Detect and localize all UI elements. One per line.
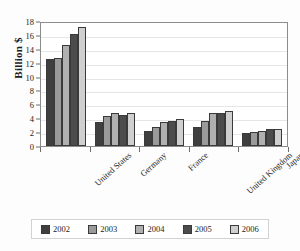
bar-group <box>242 23 282 146</box>
bar <box>152 127 160 146</box>
bar <box>193 127 201 146</box>
y-axis-tick-labels: 024681012141618 <box>0 22 40 147</box>
bar <box>176 119 184 146</box>
x-axis-category-label: Germany <box>139 150 169 179</box>
legend-swatch-icon <box>41 225 50 234</box>
bar-groups <box>41 23 287 146</box>
legend-item-label: 2005 <box>195 224 212 234</box>
bar-group <box>193 23 233 146</box>
bar <box>274 129 282 146</box>
legend-swatch-icon <box>135 225 144 234</box>
y-axis-tick-label: 0 <box>30 143 34 152</box>
bar <box>119 115 127 146</box>
y-axis-tick-label: 6 <box>30 101 34 110</box>
y-axis-tick-label: 14 <box>26 46 35 55</box>
bar <box>70 34 78 146</box>
bar <box>144 131 152 146</box>
bar-group <box>144 23 184 146</box>
legend-item-label: 2002 <box>53 224 70 234</box>
x-axis-category-label: France <box>186 150 210 173</box>
bar <box>209 113 217 146</box>
bar <box>46 59 54 146</box>
bar <box>111 113 119 146</box>
legend-item-label: 2006 <box>242 224 259 234</box>
bar <box>225 111 233 146</box>
legend-item[interactable]: 2003 <box>88 224 117 234</box>
legend-item[interactable]: 2004 <box>135 224 164 234</box>
x-axis-category-label: United Kingdom <box>244 150 293 196</box>
bar-group <box>46 23 86 146</box>
legend-item[interactable]: 2006 <box>230 224 259 234</box>
bar <box>62 45 70 146</box>
y-axis-tick-label: 12 <box>26 59 35 68</box>
y-axis-tick-label: 10 <box>26 73 35 82</box>
y-axis-tick-label: 16 <box>26 32 35 41</box>
bar <box>242 133 250 146</box>
bar <box>250 132 258 146</box>
legend-item-label: 2004 <box>147 224 164 234</box>
legend-swatch-icon <box>88 225 97 234</box>
bar <box>266 129 274 146</box>
bar <box>54 58 62 146</box>
bar <box>217 113 225 146</box>
legend-item[interactable]: 2002 <box>41 224 70 234</box>
plot-area <box>40 22 288 147</box>
bar <box>103 116 111 146</box>
bar <box>78 27 86 146</box>
legend-swatch-icon <box>230 225 239 234</box>
bar <box>168 121 176 146</box>
y-axis-tick-label: 18 <box>26 18 35 27</box>
bar-group <box>95 23 135 146</box>
bar <box>95 122 103 146</box>
y-axis-tick-label: 8 <box>30 87 34 96</box>
legend-item-label: 2003 <box>100 224 117 234</box>
y-axis-tick-label: 4 <box>30 115 34 124</box>
bar <box>160 122 168 146</box>
bar <box>258 131 266 146</box>
bar <box>127 113 135 146</box>
bar-chart: Billion $ 024681012141618 United StatesG… <box>0 0 300 251</box>
legend-item[interactable]: 2005 <box>183 224 212 234</box>
chart-legend: 20022003200420052006 <box>31 219 269 239</box>
legend-swatch-icon <box>183 225 192 234</box>
x-axis-category-label: United States <box>93 150 134 188</box>
x-axis-category-labels: United StatesGermanyFranceUnited Kingdom… <box>40 150 288 208</box>
bar <box>201 121 209 146</box>
y-axis-tick-label: 2 <box>30 129 34 138</box>
